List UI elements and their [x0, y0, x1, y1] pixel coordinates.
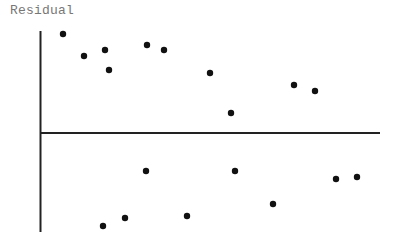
- data-point: [354, 174, 360, 180]
- data-point: [122, 215, 128, 221]
- data-point: [207, 70, 213, 76]
- residual-scatter-plot: [0, 0, 393, 244]
- data-points: [60, 31, 360, 229]
- data-point: [161, 47, 167, 53]
- data-point: [60, 31, 66, 37]
- data-point: [106, 67, 112, 73]
- data-point: [270, 201, 276, 207]
- data-point: [312, 88, 318, 94]
- data-point: [291, 82, 297, 88]
- data-point: [228, 110, 234, 116]
- data-point: [232, 168, 238, 174]
- data-point: [102, 47, 108, 53]
- data-point: [333, 176, 339, 182]
- data-point: [184, 213, 190, 219]
- data-point: [81, 53, 87, 59]
- data-point: [144, 42, 150, 48]
- data-point: [143, 168, 149, 174]
- data-point: [100, 223, 106, 229]
